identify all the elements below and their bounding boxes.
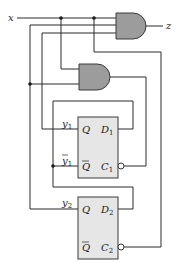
z-label: z <box>165 20 172 31</box>
clock-bubble-1 <box>118 163 124 169</box>
junction-dot <box>59 16 63 20</box>
junction-dot <box>51 164 55 168</box>
junction-dot <box>28 82 32 86</box>
ff2-qbar-label: Q <box>82 242 90 253</box>
clock-bubble-2 <box>118 244 124 250</box>
junction-dot <box>92 16 96 20</box>
y2-label: y2 <box>61 197 72 210</box>
and-gate-2 <box>79 64 110 90</box>
x-label: x <box>8 12 14 23</box>
ff2-q-label: Q <box>82 204 90 215</box>
and-gate-1 <box>116 13 146 39</box>
x-to-and2-wire <box>61 18 79 69</box>
ff1-q-label: Q <box>82 124 90 135</box>
ff1-qbar-label: Q <box>82 161 90 172</box>
circuit-diagram: x z y1 y1 Q Q D1 C1 y2 Q Q D2 C2 <box>0 0 184 271</box>
